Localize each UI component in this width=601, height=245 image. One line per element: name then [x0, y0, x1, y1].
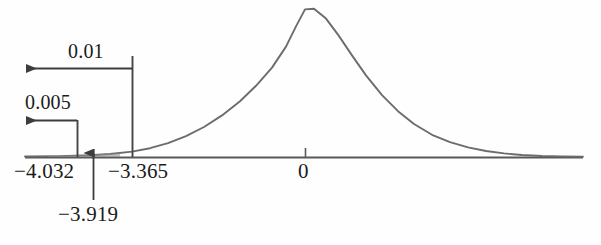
x-tick-label-observed: −3.919	[58, 204, 118, 225]
x-tick-label-center: 0	[298, 161, 309, 182]
normal-curve-figure: 0.01 0.005 −4.032 −3.365 0 −3.919	[0, 0, 601, 245]
left-tail-shading	[48, 153, 120, 157]
x-tick-label-lower-critical: −4.032	[14, 161, 74, 182]
x-tick-label-upper-critical: −3.365	[108, 161, 168, 182]
normal-density-curve	[25, 9, 583, 157]
tail-probability-005-label: 0.005	[25, 92, 71, 112]
tail-probability-01-label: 0.01	[68, 41, 104, 61]
